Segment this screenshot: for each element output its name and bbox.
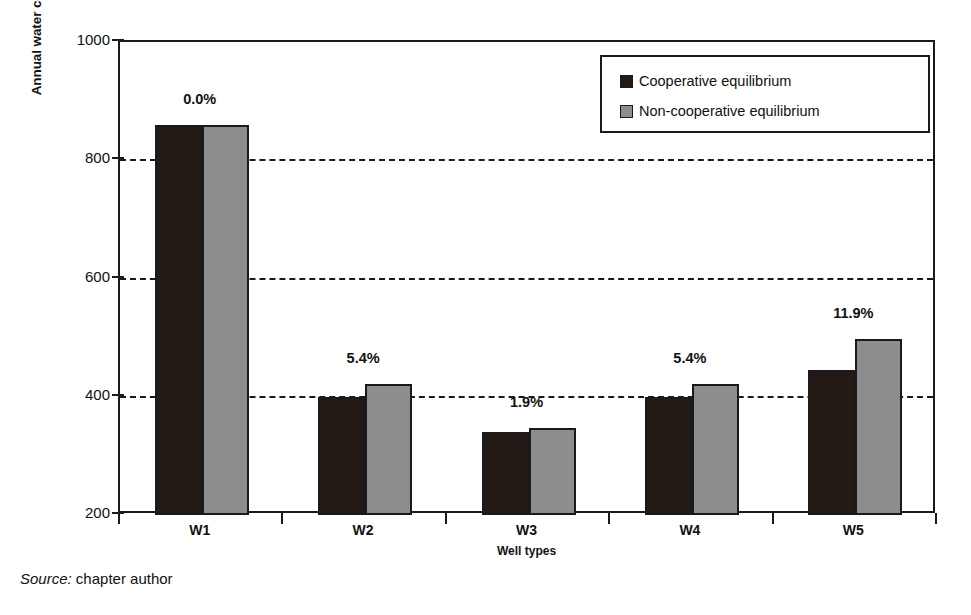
bar-chart-figure: Annual water consumption (1.000 m³) 2004…: [0, 0, 971, 560]
bar: [529, 428, 576, 515]
x-axis-tick-label: W3: [467, 522, 587, 538]
source-caption-text: chapter author: [72, 570, 173, 587]
bar: [692, 384, 739, 515]
bar: [318, 397, 365, 515]
data-label: 1.9%: [467, 394, 587, 410]
x-axis-tick-mark: [281, 513, 283, 524]
x-axis-tick-mark: [608, 513, 610, 524]
data-label: 11.9%: [793, 305, 913, 321]
y-axis-tick-mark: [112, 39, 124, 41]
y-axis-tick-label: 800: [58, 149, 110, 166]
bar: [855, 339, 902, 515]
y-axis-tick-mark: [112, 276, 124, 278]
x-axis-tick-label: W5: [793, 522, 913, 538]
x-axis-tick-mark: [935, 513, 937, 524]
legend-item: Non-cooperative equilibrium: [620, 96, 928, 126]
legend-swatch-icon: [620, 105, 633, 118]
y-axis-tick-labels: 2004006008001000: [48, 40, 110, 513]
bar: [482, 432, 529, 515]
x-axis-title: Well types: [118, 544, 935, 558]
x-axis-tick-label: W2: [303, 522, 423, 538]
y-axis-title: Annual water consumption (1.000 m³): [26, 0, 48, 142]
x-axis-tick-label: W1: [140, 522, 260, 538]
data-label: 0.0%: [140, 91, 260, 107]
source-caption-prefix: Source:: [20, 570, 72, 587]
legend-item-label: Non-cooperative equilibrium: [639, 103, 820, 119]
legend-swatch-icon: [620, 75, 633, 88]
data-label: 5.4%: [303, 350, 423, 366]
chart-legend: Cooperative equilibriumNon-cooperative e…: [600, 55, 930, 133]
x-axis-tick-mark: [118, 513, 120, 524]
bar: [365, 384, 412, 515]
x-axis-tick-label: W4: [630, 522, 750, 538]
x-axis-tick-mark: [772, 513, 774, 524]
source-caption: Source: chapter author: [20, 570, 173, 587]
y-axis-tick-label: 1000: [58, 31, 110, 48]
bar: [645, 397, 692, 515]
legend-item: Cooperative equilibrium: [620, 66, 928, 96]
y-axis-tick-label: 600: [58, 268, 110, 285]
data-label: 5.4%: [630, 350, 750, 366]
legend-item-label: Cooperative equilibrium: [639, 73, 791, 89]
y-axis-tick-label: 200: [58, 504, 110, 521]
y-axis-tick-mark: [112, 394, 124, 396]
bar: [202, 125, 249, 515]
chart-screenshot: Annual water consumption (1.000 m³) 2004…: [0, 0, 971, 615]
y-axis-tick-label: 400: [58, 386, 110, 403]
bar: [808, 370, 855, 515]
x-axis-tick-mark: [445, 513, 447, 524]
y-axis-tick-mark: [112, 157, 124, 159]
bar: [155, 125, 202, 515]
